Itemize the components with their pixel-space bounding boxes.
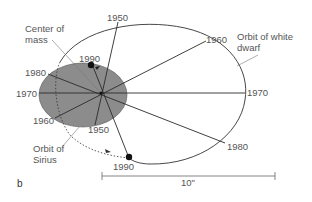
sirius-label-1: Orbit of [33,143,65,154]
white-dwarf-1990-dot [126,154,132,160]
sirius-year-1950: 1950 [88,124,109,135]
white-dwarf-leader [237,55,258,66]
white-dwarf-label-2: dwarf [237,42,261,53]
sirius-year-1980: 1980 [25,67,46,78]
scale-label: 10" [181,177,195,188]
center-of-mass-label-1: Center of [25,23,64,34]
sirius-label-2: Sirius [33,154,57,165]
center-of-mass-label-2: mass [25,34,48,45]
wd-year-1980: 1980 [227,141,248,152]
direction-arrow-icon [105,149,111,153]
wd-year-1990: 1990 [113,161,134,172]
sirius-year-1970: 1970 [16,88,37,99]
sirius-leader [62,126,80,147]
sirius-year-1960: 1960 [33,115,54,126]
wd-year-1970: 1970 [247,87,268,98]
wd-year-1950: 1950 [107,12,128,23]
white-dwarf-label-1: Orbit of white [237,31,293,42]
wd-year-1960: 1960 [206,34,227,45]
binary-orbit-diagram: Center of mass Orbit of white dwarf Orbi… [0,0,312,202]
sirius-year-1990: 1990 [79,53,100,64]
panel-label: b [17,178,23,189]
